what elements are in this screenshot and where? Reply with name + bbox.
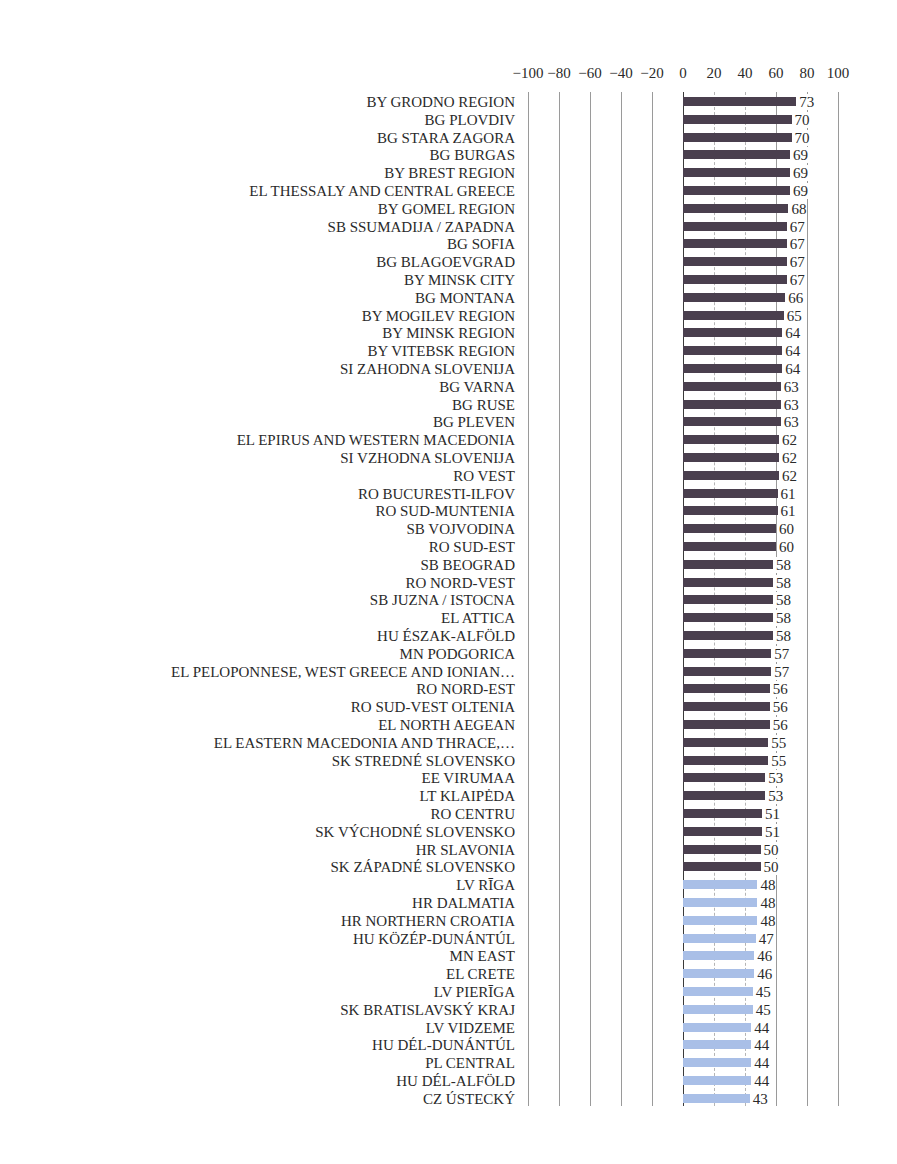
category-label: SK STREDNÉ SLOVENSKO bbox=[332, 753, 515, 769]
value-label: 53 bbox=[767, 770, 784, 786]
category-label: LV VIDZEME bbox=[426, 1020, 515, 1036]
category-label: MN PODGORICA bbox=[400, 646, 515, 662]
value-label: 57 bbox=[773, 646, 790, 662]
bar bbox=[683, 667, 771, 676]
bar bbox=[683, 364, 782, 373]
bar bbox=[683, 756, 768, 765]
category-label: RO NORD-VEST bbox=[405, 575, 515, 591]
value-label: 44 bbox=[753, 1037, 770, 1053]
value-label: 44 bbox=[753, 1073, 770, 1089]
value-label: 58 bbox=[775, 557, 792, 573]
category-label: BG PLEVEN bbox=[433, 414, 515, 430]
gridline bbox=[528, 92, 529, 1106]
category-label: SK BRATISLAVSKÝ KRAJ bbox=[340, 1002, 515, 1018]
category-label: EL PELOPONNESE, WEST GREECE AND IONIAN… bbox=[171, 664, 515, 680]
bar bbox=[683, 97, 796, 106]
value-label: 55 bbox=[770, 735, 787, 751]
category-label: BG SOFIA bbox=[447, 236, 515, 252]
category-label: BY MOGILEV REGION bbox=[362, 308, 515, 324]
category-label: SB JUZNA / ISTOCNA bbox=[370, 592, 515, 608]
value-label: 55 bbox=[770, 753, 787, 769]
gridline bbox=[652, 92, 653, 1106]
category-label: HR DALMATIA bbox=[412, 895, 515, 911]
bar bbox=[683, 631, 773, 640]
category-label: BY GOMEL REGION bbox=[378, 201, 515, 217]
gridline bbox=[838, 92, 839, 1106]
category-label: RO NORD-EST bbox=[416, 681, 515, 697]
category-label: BY GRODNO REGION bbox=[366, 94, 515, 110]
bar bbox=[683, 845, 761, 854]
bar bbox=[683, 204, 788, 213]
value-label: 46 bbox=[756, 966, 773, 982]
value-label: 73 bbox=[798, 94, 815, 110]
category-label: EE VIRUMAA bbox=[422, 770, 515, 786]
bar bbox=[683, 150, 790, 159]
x-tick-label: 40 bbox=[738, 64, 753, 82]
category-label: LV PIERĪGA bbox=[434, 984, 515, 1000]
bar bbox=[683, 1005, 753, 1014]
value-label: 58 bbox=[775, 610, 792, 626]
value-label: 64 bbox=[784, 361, 801, 377]
value-label: 69 bbox=[792, 183, 809, 199]
category-label: HU DÉL-DUNÁNTÚL bbox=[372, 1037, 515, 1053]
category-label: BG MONTANA bbox=[415, 290, 515, 306]
bar bbox=[683, 1058, 751, 1067]
category-label: SB VOJVODINA bbox=[407, 521, 516, 537]
gridline bbox=[621, 92, 622, 1106]
x-tick-label: −100 bbox=[513, 64, 544, 82]
bar bbox=[683, 951, 754, 960]
bar bbox=[683, 773, 765, 782]
category-label: HU KÖZÉP-DUNÁNTÚL bbox=[353, 931, 515, 947]
category-label: HR NORTHERN CROATIA bbox=[341, 913, 515, 929]
bar bbox=[683, 934, 756, 943]
category-label: HR SLAVONIA bbox=[416, 842, 515, 858]
category-label: SK ZÁPADNÉ SLOVENSKO bbox=[331, 859, 515, 875]
value-label: 44 bbox=[753, 1055, 770, 1071]
bar bbox=[683, 435, 779, 444]
value-label: 61 bbox=[780, 486, 797, 502]
bar bbox=[683, 257, 787, 266]
value-label: 69 bbox=[792, 165, 809, 181]
category-label: RO BUCURESTI-ILFOV bbox=[358, 486, 515, 502]
value-label: 62 bbox=[781, 432, 798, 448]
category-label: EL EPIRUS AND WESTERN MACEDONIA bbox=[237, 432, 515, 448]
bar bbox=[683, 987, 753, 996]
category-label: RO CENTRU bbox=[430, 806, 515, 822]
bar bbox=[683, 275, 787, 284]
value-label: 63 bbox=[783, 414, 800, 430]
category-label: CZ ÚSTECKÝ bbox=[423, 1091, 515, 1107]
value-label: 50 bbox=[763, 842, 780, 858]
value-label: 45 bbox=[755, 1002, 772, 1018]
bar bbox=[683, 489, 778, 498]
value-label: 48 bbox=[759, 877, 776, 893]
value-label: 65 bbox=[786, 308, 803, 324]
bar bbox=[683, 417, 781, 426]
x-tick-label: 100 bbox=[827, 64, 850, 82]
bar bbox=[683, 1023, 751, 1032]
value-label: 70 bbox=[794, 112, 811, 128]
bar bbox=[683, 328, 782, 337]
bar bbox=[683, 453, 779, 462]
value-label: 57 bbox=[773, 664, 790, 680]
category-label: HU ÉSZAK-ALFÖLD bbox=[377, 628, 515, 644]
category-label: EL EASTERN MACEDONIA AND THRACE,… bbox=[214, 735, 515, 751]
category-label: BG BLAGOEVGRAD bbox=[376, 254, 515, 270]
bar bbox=[683, 542, 776, 551]
bar bbox=[683, 133, 792, 142]
x-tick-label: 0 bbox=[679, 64, 687, 82]
bar bbox=[683, 738, 768, 747]
value-label: 53 bbox=[767, 788, 784, 804]
category-label: BG RUSE bbox=[452, 397, 515, 413]
bar bbox=[683, 1076, 751, 1085]
value-label: 51 bbox=[764, 806, 781, 822]
bar bbox=[683, 400, 781, 409]
value-label: 67 bbox=[789, 272, 806, 288]
bar bbox=[683, 595, 773, 604]
gridline bbox=[807, 92, 808, 1106]
bar bbox=[683, 382, 781, 391]
value-label: 69 bbox=[792, 147, 809, 163]
category-label: SI ZAHODNA SLOVENIJA bbox=[340, 361, 515, 377]
category-label: BG STARA ZAGORA bbox=[377, 130, 515, 146]
value-label: 58 bbox=[775, 575, 792, 591]
value-label: 67 bbox=[789, 219, 806, 235]
